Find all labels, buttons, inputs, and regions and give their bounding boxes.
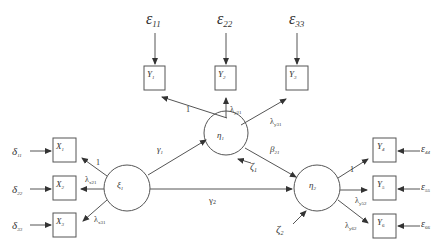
eta2-y6-loading-label: λy62 [345,221,357,231]
xi1-label: ξ1 [117,180,123,191]
eta1-y1-loading-label: 1 [186,105,190,114]
eta1-to-y1-arrow [162,97,227,118]
x1-label: X1 [55,141,64,152]
y1-label: Y1 [147,69,155,80]
x3-label: X3 [55,216,65,227]
xi1-x2-loading-label: λx21 [85,175,97,185]
y3-label: Y3 [289,69,297,80]
xi1-x1-loading-label: 1 [96,158,100,167]
y6-label: Y6 [377,217,385,228]
gamma2-label: γ2 [208,195,216,205]
beta21-label: β21 [269,144,279,155]
eps55-label: ε55 [421,181,430,193]
xi1-circle [104,165,150,211]
eta2-label: η2 [309,180,316,191]
zeta2-to-eta2-arrow [293,211,306,224]
delta11-label: δ11 [12,145,22,158]
zeta2-label: ζ2 [276,223,283,236]
eta1-y2-loading-label: λy21 [230,105,242,115]
y4-label: Y4 [377,141,385,152]
eta1-y3-loading-label: λy31 [270,117,282,127]
eps11-label: ε11 [146,10,161,29]
eps66-label: ε66 [421,218,430,230]
eta2-circle [294,165,340,211]
eps44-label: ε44 [421,143,430,155]
delta22-label: δ22 [12,183,23,196]
y2-label: Y2 [218,69,226,80]
xi1-x3-loading-label: λx31 [94,215,106,225]
eta2-y4-loading-label: 1 [350,165,354,174]
sem-path-diagram: ε11 ε22 ε33 Y1 Y2 Y3 1 λy21 λy31 η1 ξ1 η… [0,0,446,252]
zeta1-label: ζ1 [250,161,257,173]
eta2-y5-loading-label: λy52 [355,196,367,206]
xi1-to-x1-arrow [82,158,107,176]
eps22-label: ε22 [217,10,233,29]
eta1-label: η1 [217,130,224,141]
delta33-label: δ33 [12,219,23,232]
y5-label: Y5 [377,179,385,190]
x2-label: X2 [55,179,65,190]
eps33-label: ε33 [289,10,305,29]
gamma1-label: γ1 [157,144,163,155]
